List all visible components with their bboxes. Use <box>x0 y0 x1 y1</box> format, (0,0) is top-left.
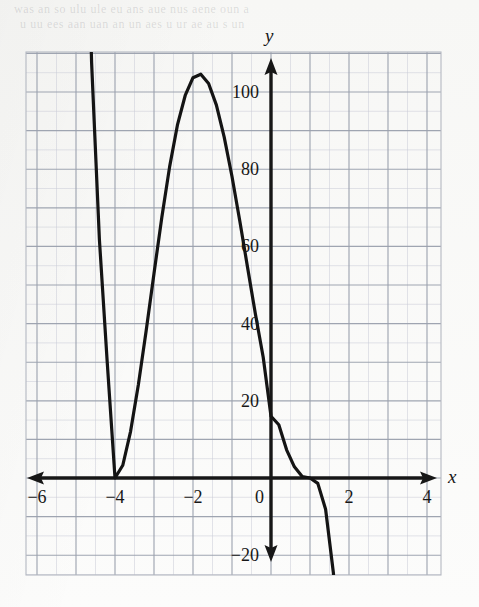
y-axis-name: y <box>265 26 273 45</box>
x-tick-label-neg2: −2 <box>183 488 202 506</box>
x-tick-label-4: 4 <box>423 488 432 506</box>
x-tick-label-2: 2 <box>345 488 354 506</box>
y-tick-label-neg20: −20 <box>231 546 259 564</box>
y-tick-label-80: 80 <box>241 160 259 178</box>
x-axis-name: x <box>448 467 456 486</box>
x-tick-label-neg4: −4 <box>105 488 124 506</box>
grid-major <box>26 52 441 575</box>
y-tick-label-40: 40 <box>241 315 259 333</box>
y-tick-label-60: 60 <box>241 237 259 255</box>
function-curve <box>86 0 353 607</box>
y-axis <box>265 58 278 562</box>
x-tick-label-origin: 0 <box>255 488 264 506</box>
y-tick-label-20: 20 <box>241 392 259 410</box>
x-tick-label-neg6: −6 <box>27 488 46 506</box>
y-tick-label-100: 100 <box>232 83 259 101</box>
